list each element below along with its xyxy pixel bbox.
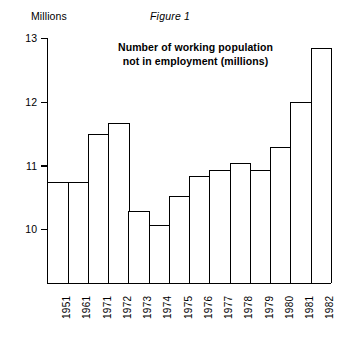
- x-axis-tick-label-1977: 1977: [224, 295, 234, 318]
- figure-1-bar-chart: Millions Figure 1 Number of working popu…: [0, 0, 355, 340]
- x-axis-tick-label-1974: 1974: [163, 295, 173, 318]
- x-axis-tick-label-1980: 1980: [285, 295, 295, 318]
- x-axis-tick-label-1978: 1978: [244, 295, 254, 318]
- y-axis-tick-label-13: 13: [25, 33, 37, 44]
- y-axis-tick-label-12: 12: [25, 97, 37, 108]
- bar-1976: [189, 176, 211, 283]
- bar-1971: [88, 134, 110, 282]
- bar-1977: [209, 170, 231, 282]
- bar-1980: [270, 147, 292, 283]
- bar-1979: [250, 170, 272, 282]
- bar-1974: [149, 225, 171, 282]
- y-axis-tick-13: [41, 38, 48, 39]
- bar-1978: [230, 163, 252, 283]
- bar-1972: [108, 123, 130, 283]
- x-axis-tick-label-1973: 1973: [143, 295, 153, 318]
- y-axis-tick-label-11: 11: [26, 161, 37, 172]
- y-axis-tick-12: [41, 102, 48, 103]
- x-axis-tick-label-1982: 1982: [325, 295, 335, 318]
- bar-1951: [47, 182, 69, 283]
- x-axis-tick-label-1951: 1951: [62, 295, 72, 318]
- plot-area: 10111213 1951196119711972197319741975197…: [0, 0, 355, 340]
- x-axis-tick-label-1971: 1971: [103, 295, 113, 318]
- bar-1975: [169, 196, 191, 283]
- x-axis-tick-label-1972: 1972: [123, 295, 133, 318]
- y-axis-tick-11: [41, 165, 48, 166]
- x-axis-tick-label-1961: 1961: [82, 295, 92, 318]
- x-axis-tick-label-1979: 1979: [265, 295, 275, 318]
- x-axis-line: [47, 283, 331, 284]
- bar-1973: [128, 211, 150, 283]
- x-axis-tick-label-1981: 1981: [305, 295, 315, 318]
- bar-1982: [311, 48, 333, 282]
- bar-1961: [68, 182, 90, 283]
- x-axis-tick-label-1975: 1975: [184, 295, 194, 318]
- x-axis-tick-label-1976: 1976: [204, 295, 214, 318]
- bar-1981: [290, 102, 312, 282]
- y-axis-tick-label-10: 10: [25, 224, 37, 235]
